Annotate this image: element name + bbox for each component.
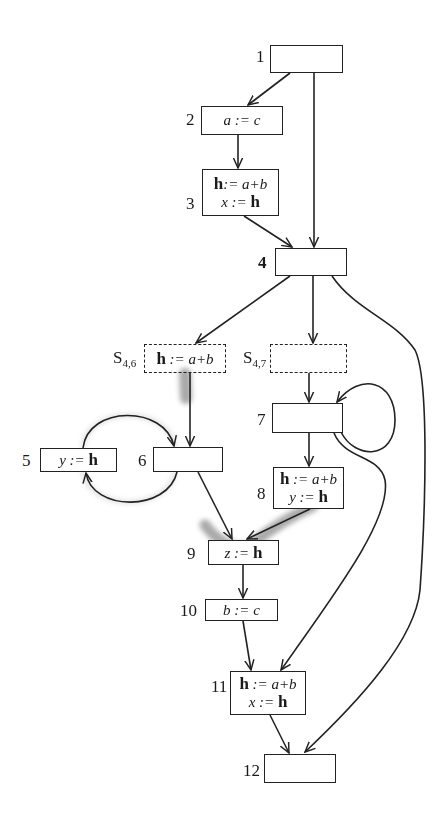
node-label-4: 4 [258, 254, 267, 271]
edge-5-6 [83, 415, 174, 448]
edge-1-2 [248, 73, 290, 105]
node-label-12: 12 [243, 762, 260, 779]
edge-10-11 [243, 621, 251, 670]
node-7-box [272, 403, 343, 433]
node-9-box: z := h [208, 540, 279, 565]
node-3-box: h:= a+b x := h [202, 169, 279, 216]
node-6-box [153, 447, 223, 472]
statement: h := a+b [280, 470, 337, 488]
node-10-box: b := c [205, 599, 278, 621]
edge-4-s46 [196, 276, 290, 343]
node-label-2: 2 [186, 111, 195, 128]
node-8-box: h := a+b y := h [273, 467, 344, 509]
node-label-1: 1 [256, 48, 265, 65]
node-label-5: 5 [22, 452, 31, 469]
node-12-box [264, 754, 336, 783]
statement: b := c [223, 602, 260, 619]
node-1-box [270, 45, 343, 73]
node-label-9: 9 [187, 545, 196, 562]
statement: h:= a+b [214, 175, 267, 193]
node-label-s47: S4,7 [243, 349, 266, 372]
node-label-8: 8 [257, 485, 266, 502]
statement: x := h [221, 193, 260, 211]
statement: a := c [224, 112, 261, 129]
statement: h := a+b [156, 350, 213, 368]
statement: y := h [289, 488, 328, 506]
node-5-box: y := h [40, 448, 117, 472]
edge-11-12 [270, 715, 289, 753]
node-label-6: 6 [138, 452, 147, 469]
node-11-box: h := a+b x := h [230, 671, 306, 715]
statement: y := h [59, 451, 98, 469]
statement: x := h [249, 693, 288, 711]
node-label-10: 10 [180, 602, 197, 619]
node-s46-box: h := a+b [144, 344, 226, 373]
edge-6-5 [86, 472, 177, 502]
node-label-11: 11 [211, 678, 227, 695]
node-label-s46: S4,6 [113, 349, 136, 372]
node-4-box [275, 248, 347, 276]
edge-3-4 [244, 216, 292, 247]
edge-8-9 [247, 509, 310, 539]
node-s47-box [270, 344, 347, 373]
edge-7-self-loop [337, 384, 395, 452]
node-label-3: 3 [186, 195, 195, 212]
node-label-7: 7 [257, 411, 266, 428]
node-2-box: a := c [201, 106, 283, 135]
statement: z := h [225, 544, 263, 562]
statement: h := a+b [239, 675, 296, 693]
highlight-s46-to-6 [185, 374, 186, 398]
